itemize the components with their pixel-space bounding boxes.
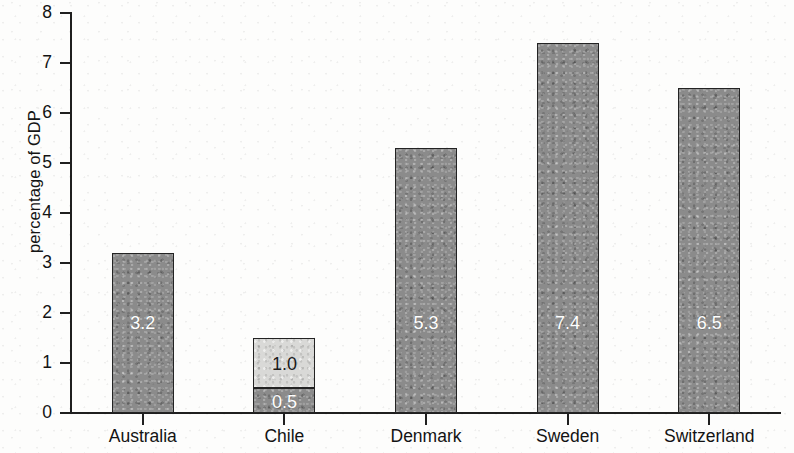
y-axis-tick-1	[60, 362, 72, 364]
bar-chile-lower: 0.5	[253, 388, 315, 413]
bar-denmark-lower: 5.3	[395, 148, 457, 413]
x-axis-tick-switzerland	[708, 414, 710, 425]
y-axis-tick-label-4: 4	[6, 204, 52, 222]
category-label-switzerland: Switzerland	[619, 428, 794, 446]
y-axis-tick-label-7: 7	[6, 54, 52, 72]
x-axis-tick-sweden	[567, 414, 569, 425]
x-axis-tick-chile	[283, 414, 285, 425]
y-axis-tick-label-2: 2	[6, 304, 52, 322]
y-axis-tick-label-0: 0	[6, 404, 52, 422]
bar-value-label-sweden-lower: 7.4	[538, 314, 598, 332]
y-axis-tick-0	[60, 412, 72, 414]
y-axis-tick-4	[60, 212, 72, 214]
y-axis-tick-6	[60, 112, 72, 114]
y-axis-tick-label-8: 8	[6, 4, 52, 22]
y-axis-tick-label-1: 1	[6, 354, 52, 372]
bar-value-label-switzerland-lower: 6.5	[679, 314, 739, 332]
bar-australia-lower: 3.2	[112, 253, 174, 413]
x-axis-tick-denmark	[425, 414, 427, 425]
y-axis-tick-5	[60, 162, 72, 164]
y-axis-tick-label-3: 3	[6, 254, 52, 272]
bar-value-label-chile-lower: 0.5	[254, 393, 314, 411]
bar-sweden-lower: 7.4	[537, 43, 599, 413]
bar-value-label-denmark-lower: 5.3	[396, 314, 456, 332]
y-axis-tick-7	[60, 62, 72, 64]
bar-value-label-chile-upper: 1.0	[254, 355, 314, 373]
y-axis-tick-label-5: 5	[6, 154, 52, 172]
y-axis-tick-3	[60, 262, 72, 264]
bar-chile-upper: 1.0	[253, 338, 315, 388]
y-axis-tick-8	[60, 12, 72, 14]
y-axis-tick-2	[60, 312, 72, 314]
x-axis-tick-australia	[142, 414, 144, 425]
bar-switzerland-lower: 6.5	[678, 88, 740, 413]
bar-value-label-australia-lower: 3.2	[113, 314, 173, 332]
y-axis-tick-label-6: 6	[6, 104, 52, 122]
bar-chart-figure: percentage of GDP 012345678 3.20.51.05.3…	[0, 0, 794, 453]
